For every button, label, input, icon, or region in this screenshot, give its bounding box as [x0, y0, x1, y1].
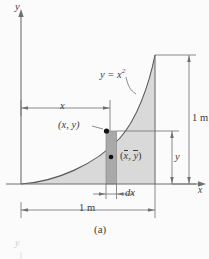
dim-dx-label: dx: [125, 188, 135, 199]
dim-height-arrow-bottom: [187, 177, 191, 184]
centroid-dot: [109, 155, 114, 160]
figure-container: y x y = x2 (x, y) (x, y) x dx 1 m 1 m y …: [0, 0, 209, 259]
dim-height-label: 1 m: [192, 113, 208, 124]
dim-x-arrow-left: [22, 106, 29, 110]
curve-equation-exponent: 2: [122, 67, 126, 75]
figure-drawing: [0, 0, 209, 259]
dim-width-label: 1 m: [79, 203, 95, 214]
x-axis-label: x: [198, 186, 202, 196]
dim-height-arrow-top: [187, 56, 191, 63]
curve-equation-label: y = x2: [100, 68, 125, 80]
curve-label-leader: [126, 77, 136, 94]
dim-x-arrow-right: [103, 106, 110, 110]
dim-width-arrow-left: [22, 208, 29, 212]
y-axis-label: y: [15, 2, 20, 13]
centroid-label-close: ): [138, 150, 142, 161]
figure-caption: (a): [94, 224, 106, 235]
dim-y-label: y: [175, 152, 180, 163]
point-label-leader: [92, 126, 103, 129]
dim-dx-arrow-left: [99, 192, 106, 196]
dim-x-label: x: [60, 101, 65, 112]
point-xy-label: (x, y): [58, 120, 80, 131]
dim-dx-arrow-right: [117, 192, 124, 196]
curve-equation-base: y = x: [100, 69, 122, 80]
next-figure-y-axis-label: y: [15, 238, 20, 249]
dim-y-arrow-bottom: [170, 177, 174, 184]
centroid-label-comma: ,: [128, 150, 131, 161]
centroid-label: (x, y): [120, 150, 142, 162]
dim-width-arrow-right: [148, 208, 155, 212]
area-fill-region: [21, 55, 155, 184]
dim-y-arrow-top: [170, 132, 174, 139]
point-on-curve-dot: [104, 128, 109, 133]
